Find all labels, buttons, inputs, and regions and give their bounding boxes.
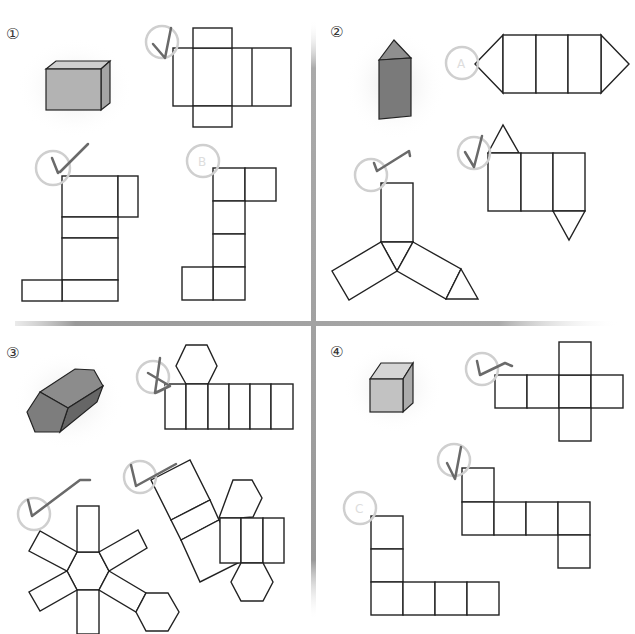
problem-4: C xyxy=(343,342,623,615)
option-b-net[interactable] xyxy=(182,168,276,300)
vertical-divider xyxy=(311,20,316,620)
option-letter: C xyxy=(355,502,363,516)
option-b-net[interactable] xyxy=(488,125,585,240)
problem-number-4: ④ xyxy=(330,343,343,361)
option-a-net[interactable] xyxy=(165,345,293,429)
worksheet-canvas: B A xyxy=(0,0,635,634)
option-c-net[interactable] xyxy=(22,176,138,301)
horizontal-divider xyxy=(15,321,620,326)
option-b-net[interactable] xyxy=(462,468,590,568)
option-a-net[interactable] xyxy=(495,342,623,441)
cube-solid xyxy=(370,363,413,412)
option-c-net[interactable] xyxy=(29,506,179,634)
rectangular-prism-solid xyxy=(46,61,110,110)
option-letter: A xyxy=(457,57,466,71)
option-a-net[interactable] xyxy=(475,35,629,93)
problem-1: B xyxy=(17,26,291,301)
problem-number-2: ② xyxy=(330,23,343,41)
problem-number-1: ① xyxy=(6,25,19,43)
option-c-net[interactable] xyxy=(332,183,478,300)
option-letter: B xyxy=(198,155,206,169)
check-mark-icon xyxy=(58,144,88,172)
check-mark-icon xyxy=(477,361,512,375)
check-mark-icon xyxy=(465,136,482,167)
option-circle[interactable] xyxy=(355,159,387,191)
check-mark-icon xyxy=(148,358,170,393)
check-mark-icon xyxy=(52,158,58,173)
option-a-net[interactable] xyxy=(173,28,291,127)
check-mark-icon xyxy=(153,28,171,58)
option-circle[interactable] xyxy=(438,444,470,476)
problem-number-3: ③ xyxy=(6,344,19,362)
problem-3 xyxy=(13,345,293,634)
problem-2: A xyxy=(332,30,629,300)
option-b-net[interactable] xyxy=(151,460,284,601)
